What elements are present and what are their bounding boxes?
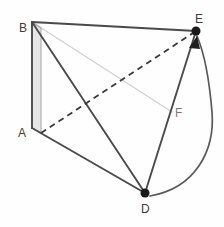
geometry-canvas xyxy=(0,0,224,227)
segment-label-f: F xyxy=(175,107,182,119)
edge-b-to-d xyxy=(32,22,145,193)
vertex-dot-d xyxy=(141,189,150,198)
vertex-label-e: E xyxy=(195,13,203,25)
edge-e-to-d xyxy=(145,31,196,193)
edge-b-to-e xyxy=(32,22,196,31)
edge-b-to-f-point xyxy=(32,22,172,112)
vertex-label-a: A xyxy=(18,127,26,139)
vertex-label-d: D xyxy=(141,203,150,215)
vertex-label-b: B xyxy=(19,22,27,34)
geometry-figure: B E A D F xyxy=(0,0,224,227)
edge-a-back-to-e-dashed xyxy=(41,31,196,133)
vertex-dot-e xyxy=(192,27,201,36)
edge-a-to-d xyxy=(32,128,145,193)
shaded-face-abba xyxy=(32,22,41,133)
